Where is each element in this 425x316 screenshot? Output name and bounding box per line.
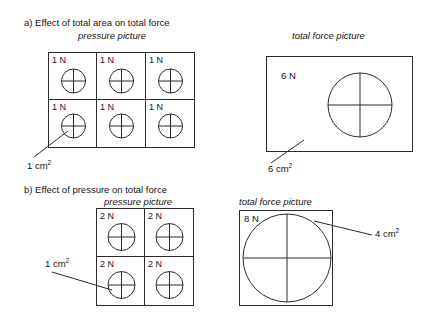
figure-canvas: a) Effect of total area on total force p… [0,0,425,316]
part-a-area-leader-line [30,128,80,160]
force-circle-icon [145,209,194,258]
part-b-pressure-caption: pressure picture [104,196,172,207]
force-circle-icon [97,209,146,258]
part-a-total-force-circle-icon [320,65,400,145]
pressure-cell: 1 N [97,52,146,100]
part-b-total-area-leader-line [312,218,376,240]
pressure-cell: 1 N [146,52,195,100]
pressure-cell: 1 N [48,52,97,100]
part-b-area-leader-line [50,270,118,294]
part-a-grid-area-label: 1 cm2 [27,160,51,171]
force-circle-icon [145,257,194,306]
part-a-total-force-caption: total force picture [292,30,365,41]
part-b-total-area-exponent: 2 [396,227,400,234]
part-b-grid-area-exponent: 2 [66,257,70,264]
force-circle-icon [97,100,146,148]
pressure-cell: 1 N [146,100,195,148]
part-a-grid-area-value: 1 cm [27,160,48,171]
part-b-total-area-label: 4 cm2 [375,228,399,239]
part-b-grid-area-label: 1 cm2 [45,258,69,269]
part-a-total-area-value: 6 cm [268,163,289,174]
pressure-cell: 2 N [96,208,145,257]
force-circle-icon [146,100,195,148]
part-a-grid-area-exponent: 2 [48,159,52,166]
pressure-cell: 2 N [145,208,194,257]
part-b-grid-area-value: 1 cm [45,258,66,269]
part-b-total-force-caption: total force picture [239,196,312,207]
part-a-pressure-caption: pressure picture [78,30,146,41]
part-b-heading: b) Effect of pressure on total force [24,184,167,195]
force-circle-icon [49,53,98,101]
part-b-total-area-value: 4 cm [375,228,396,239]
force-circle-icon [146,53,195,101]
pressure-cell: 2 N [145,257,194,306]
part-a-total-force-label: 6 N [281,71,296,81]
part-a-heading: a) Effect of total area on total force [24,17,170,28]
part-a-total-area-exponent: 2 [289,162,293,169]
pressure-cell: 1 N [97,100,146,148]
force-circle-icon [97,53,146,101]
part-a-total-area-label: 6 cm2 [268,163,292,174]
